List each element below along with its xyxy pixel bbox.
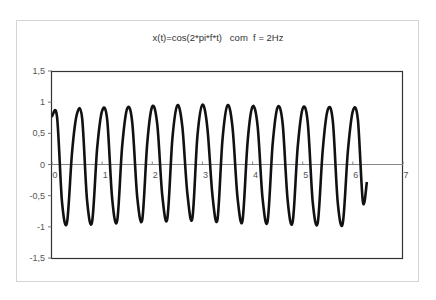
y-tick-label: 0: [40, 160, 45, 170]
x-axis: 01234567: [52, 162, 409, 180]
y-axis: 1,510,50-0,5-1-1,5: [29, 66, 52, 263]
plot-area: 1,510,50-0,5-1-1,5 01234567: [0, 0, 436, 300]
y-tick-label: 1: [40, 97, 45, 107]
x-tick-label: 7: [403, 170, 408, 180]
x-tick-label: 4: [253, 170, 258, 180]
y-tick-label: 1,5: [32, 66, 45, 76]
x-tick-label: 2: [153, 170, 158, 180]
x-tick-label: 0: [52, 170, 57, 180]
x-tick-label: 5: [303, 170, 308, 180]
x-tick-label: 1: [103, 170, 108, 180]
y-tick-label: -0,5: [29, 191, 45, 201]
y-tick-label: 0,5: [32, 128, 45, 138]
data-line: [52, 105, 367, 226]
x-tick-label: 6: [353, 170, 358, 180]
x-tick-label: 3: [203, 170, 208, 180]
y-tick-label: -1,5: [29, 253, 45, 263]
y-tick-label: -1: [37, 222, 45, 232]
